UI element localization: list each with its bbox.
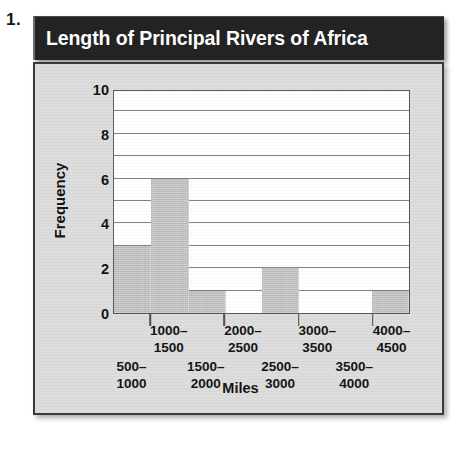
x-axis-category-line: 1000– [127, 322, 211, 339]
chart-title-bar: Length of Principal Rivers of Africa [33, 16, 444, 60]
bar [372, 291, 409, 313]
problem-number: 1. [6, 10, 21, 30]
x-axis-labels-upper-row: 1000–15002000–25003000–35004000–4500 [113, 322, 410, 362]
bar [114, 246, 151, 313]
bar-series [114, 91, 409, 313]
bar [262, 268, 299, 313]
y-axis-tick-label: 10 [79, 82, 109, 98]
x-axis-category-line: 1500 [127, 339, 211, 356]
y-axis-tick-label: 4 [79, 216, 109, 232]
x-axis-category-line: 4500 [349, 339, 433, 356]
x-axis-category-line: 4000– [349, 322, 433, 339]
y-axis-tick-label: 2 [79, 261, 109, 277]
x-axis-category-line: 3500 [275, 339, 359, 356]
bar [189, 291, 226, 313]
x-axis-category-line: 3000– [275, 322, 359, 339]
chart-title: Length of Principal Rivers of Africa [35, 27, 368, 50]
x-axis-category-label: 1000–1500 [127, 322, 211, 356]
y-axis-label: Frequency [51, 141, 68, 261]
bar [151, 179, 188, 313]
x-axis-category-line: 1500– [164, 358, 248, 375]
y-axis-tick-label: 0 [79, 306, 109, 322]
x-axis-category-line: 500– [90, 358, 174, 375]
x-axis-category-label: 4000–4500 [349, 322, 433, 356]
x-axis-category-label: 3000–3500 [275, 322, 359, 356]
x-axis-category-line: 3500– [312, 358, 396, 375]
chart-panel: Frequency 0246810 1000–15002000–25003000… [33, 62, 444, 415]
y-axis-tick-labels: 0246810 [75, 90, 109, 314]
chart-figure: Length of Principal Rivers of Africa Fre… [33, 16, 444, 417]
x-axis-category-line: 2500 [201, 339, 285, 356]
y-axis-tick-label: 8 [79, 127, 109, 143]
y-axis-tick-label: 6 [79, 172, 109, 188]
x-axis-category-line: 2500– [238, 358, 322, 375]
x-axis-category-line: 2000– [201, 322, 285, 339]
x-axis-category-label: 2000–2500 [201, 322, 285, 356]
x-axis-label: Miles [35, 380, 446, 396]
plot-area [113, 90, 410, 314]
